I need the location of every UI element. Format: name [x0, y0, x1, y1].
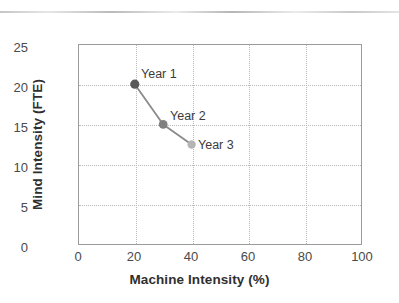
- data-point-year-3[interactable]: [187, 140, 195, 148]
- data-point-year-1[interactable]: [130, 80, 139, 89]
- y-axis-title: Mind Intensity (FTE): [30, 45, 45, 245]
- data-label-year-1: Year 1: [141, 68, 177, 81]
- data-label-year-3: Year 3: [198, 139, 234, 152]
- chart-figure: 25 20 15 10 5 0 0 20 40 60 80 100 Year 1…: [0, 0, 399, 303]
- x-axis-title: Machine Intensity (%): [0, 272, 399, 287]
- data-label-year-2: Year 2: [170, 110, 206, 123]
- data-point-year-2[interactable]: [159, 120, 168, 129]
